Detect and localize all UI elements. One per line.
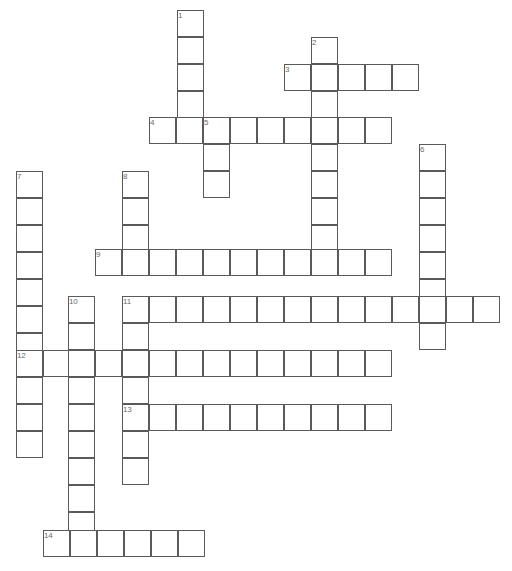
crossword-cell[interactable] bbox=[311, 198, 338, 225]
crossword-cell[interactable] bbox=[284, 117, 311, 144]
crossword-cell[interactable] bbox=[311, 350, 338, 377]
crossword-cell[interactable] bbox=[419, 171, 446, 198]
crossword-cell[interactable] bbox=[419, 225, 446, 252]
crossword-cell-numbered[interactable] bbox=[419, 144, 446, 171]
crossword-cell[interactable] bbox=[176, 404, 203, 431]
crossword-cell[interactable] bbox=[257, 404, 284, 431]
crossword-cell[interactable] bbox=[311, 404, 338, 431]
crossword-cell[interactable] bbox=[311, 64, 338, 91]
crossword-cell[interactable] bbox=[365, 117, 392, 144]
crossword-cell[interactable] bbox=[16, 431, 43, 458]
crossword-cell[interactable] bbox=[122, 350, 149, 377]
crossword-cell-numbered[interactable] bbox=[122, 171, 149, 198]
crossword-cell[interactable] bbox=[419, 198, 446, 225]
crossword-cell[interactable] bbox=[284, 296, 311, 323]
crossword-cell[interactable] bbox=[177, 37, 204, 64]
crossword-cell[interactable] bbox=[230, 117, 257, 144]
crossword-cell[interactable] bbox=[311, 144, 338, 171]
crossword-cell[interactable] bbox=[311, 171, 338, 198]
crossword-cell[interactable] bbox=[149, 249, 176, 276]
crossword-cell[interactable] bbox=[311, 296, 338, 323]
crossword-cell[interactable] bbox=[70, 530, 97, 557]
crossword-cell[interactable] bbox=[311, 117, 338, 144]
crossword-cell[interactable] bbox=[446, 296, 473, 323]
crossword-cell[interactable] bbox=[122, 225, 149, 252]
crossword-cell[interactable] bbox=[311, 91, 338, 118]
crossword-cell[interactable] bbox=[122, 431, 149, 458]
crossword-cell[interactable] bbox=[122, 198, 149, 225]
crossword-cell[interactable] bbox=[203, 171, 230, 198]
crossword-cell[interactable] bbox=[16, 377, 43, 404]
crossword-cell[interactable] bbox=[284, 350, 311, 377]
crossword-cell-numbered[interactable] bbox=[122, 296, 149, 323]
crossword-cell[interactable] bbox=[284, 404, 311, 431]
crossword-cell[interactable] bbox=[230, 296, 257, 323]
crossword-cell[interactable] bbox=[230, 404, 257, 431]
crossword-cell[interactable] bbox=[419, 296, 446, 323]
crossword-cell[interactable] bbox=[176, 296, 203, 323]
crossword-cell[interactable] bbox=[338, 404, 365, 431]
crossword-cell[interactable] bbox=[338, 64, 365, 91]
crossword-cell[interactable] bbox=[122, 249, 149, 276]
crossword-cell[interactable] bbox=[122, 377, 149, 404]
crossword-cell[interactable] bbox=[151, 530, 178, 557]
crossword-cell[interactable] bbox=[124, 530, 151, 557]
crossword-cell[interactable] bbox=[365, 296, 392, 323]
crossword-cell[interactable] bbox=[419, 323, 446, 350]
crossword-cell[interactable] bbox=[419, 252, 446, 279]
crossword-cell-numbered[interactable] bbox=[311, 37, 338, 64]
crossword-cell[interactable] bbox=[203, 296, 230, 323]
crossword-cell[interactable] bbox=[392, 296, 419, 323]
crossword-cell[interactable] bbox=[177, 64, 204, 91]
crossword-cell[interactable] bbox=[365, 350, 392, 377]
crossword-cell-numbered[interactable] bbox=[122, 404, 149, 431]
crossword-cell[interactable] bbox=[365, 64, 392, 91]
crossword-cell[interactable] bbox=[149, 350, 176, 377]
crossword-cell[interactable] bbox=[178, 530, 205, 557]
crossword-cell[interactable] bbox=[203, 404, 230, 431]
crossword-cell[interactable] bbox=[176, 117, 203, 144]
crossword-cell[interactable] bbox=[257, 249, 284, 276]
crossword-cell[interactable] bbox=[97, 530, 124, 557]
crossword-cell[interactable] bbox=[122, 458, 149, 485]
crossword-cell[interactable] bbox=[257, 117, 284, 144]
crossword-cell-numbered[interactable] bbox=[16, 350, 43, 377]
crossword-cell[interactable] bbox=[68, 350, 95, 377]
crossword-cell[interactable] bbox=[16, 404, 43, 431]
crossword-cell-numbered[interactable] bbox=[16, 171, 43, 198]
crossword-cell[interactable] bbox=[176, 350, 203, 377]
crossword-cell[interactable] bbox=[16, 306, 43, 333]
crossword-cell[interactable] bbox=[177, 91, 204, 118]
crossword-grid[interactable]: 1234567891011121314 bbox=[0, 0, 512, 571]
crossword-cell[interactable] bbox=[338, 296, 365, 323]
crossword-cell[interactable] bbox=[16, 198, 43, 225]
crossword-cell[interactable] bbox=[311, 249, 338, 276]
crossword-cell[interactable] bbox=[16, 279, 43, 306]
crossword-cell[interactable] bbox=[257, 350, 284, 377]
crossword-cell-numbered[interactable] bbox=[149, 117, 176, 144]
crossword-cell[interactable] bbox=[257, 296, 284, 323]
crossword-cell[interactable] bbox=[203, 249, 230, 276]
crossword-cell[interactable] bbox=[122, 323, 149, 350]
crossword-cell[interactable] bbox=[176, 249, 203, 276]
crossword-cell[interactable] bbox=[365, 249, 392, 276]
crossword-cell-numbered[interactable] bbox=[68, 296, 95, 323]
crossword-cell[interactable] bbox=[203, 144, 230, 171]
crossword-cell[interactable] bbox=[43, 350, 70, 377]
crossword-cell[interactable] bbox=[68, 485, 95, 512]
crossword-cell[interactable] bbox=[338, 350, 365, 377]
crossword-cell[interactable] bbox=[16, 225, 43, 252]
crossword-cell[interactable] bbox=[95, 350, 122, 377]
crossword-cell[interactable] bbox=[230, 350, 257, 377]
crossword-cell[interactable] bbox=[230, 249, 257, 276]
crossword-cell-numbered[interactable] bbox=[95, 249, 122, 276]
crossword-cell-numbered[interactable] bbox=[203, 117, 230, 144]
crossword-cell[interactable] bbox=[338, 249, 365, 276]
crossword-cell[interactable] bbox=[149, 404, 176, 431]
crossword-cell-numbered[interactable] bbox=[177, 10, 204, 37]
crossword-cell[interactable] bbox=[365, 404, 392, 431]
crossword-cell[interactable] bbox=[16, 252, 43, 279]
crossword-cell[interactable] bbox=[68, 404, 95, 431]
crossword-cell[interactable] bbox=[149, 296, 176, 323]
crossword-cell[interactable] bbox=[203, 350, 230, 377]
